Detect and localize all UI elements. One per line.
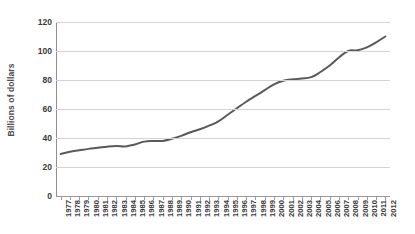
x-axis-tick-label: 1999 [268, 200, 277, 217]
x-axis-tick-label: 1980 [92, 200, 101, 217]
x-axis-tick-mark [385, 196, 386, 200]
x-axis-tick-label: 1998 [259, 200, 268, 217]
x-axis-tick-label: 1990 [184, 200, 193, 217]
x-axis-tick-mark [237, 196, 238, 200]
x-axis-tick-label: 1991 [194, 200, 203, 217]
x-axis-tick-mark [218, 196, 219, 200]
x-axis-tick-mark [88, 196, 89, 200]
plot-area [56, 22, 390, 196]
y-axis-title-text: Billions of dollars [6, 63, 16, 136]
x-axis-tick-mark [265, 196, 266, 200]
y-axis-tick-label: 120 [24, 17, 52, 27]
x-axis-tick-label: 1984 [129, 200, 138, 217]
x-axis-tick-mark [283, 196, 284, 200]
x-axis-tick-mark [302, 196, 303, 200]
x-axis-tick-label: 1992 [203, 200, 212, 217]
x-axis-tick-label: 2000 [277, 200, 286, 217]
x-axis-tick-label: 2010 [370, 200, 379, 217]
x-axis-tick-mark [367, 196, 368, 200]
x-axis-tick-mark [70, 196, 71, 200]
x-axis-tick-mark [116, 196, 117, 200]
x-axis-tick-label: 1979 [82, 200, 91, 217]
y-axis-tick-label: 100 [24, 46, 52, 56]
y-axis-tick-label: 60 [24, 104, 52, 114]
x-axis-tick-mark [153, 196, 154, 200]
x-axis-tick-label: 1978 [73, 200, 82, 217]
x-axis-tick-mark [144, 196, 145, 200]
x-axis-tick-mark [107, 196, 108, 200]
series-path [61, 37, 386, 154]
x-axis-tick-label: 2006 [333, 200, 342, 217]
x-axis-tick-label: 1989 [175, 200, 184, 217]
x-axis-tick-mark [358, 196, 359, 200]
x-axis-tick-label: 2008 [351, 200, 360, 217]
x-axis-tick-mark [181, 196, 182, 200]
x-axis-tick-label: 2009 [361, 200, 370, 217]
x-axis-tick-mark [126, 196, 127, 200]
x-axis-tick-mark [209, 196, 210, 200]
gridline [56, 22, 390, 23]
x-axis-tick-label: 2004 [314, 200, 323, 217]
y-axis-tick-label: 0 [24, 191, 52, 201]
x-axis-tick-label: 1994 [222, 200, 231, 217]
x-axis-tick-label: 1997 [249, 200, 258, 217]
y-axis-tick-label: 80 [24, 75, 52, 85]
x-axis-tick-mark [330, 196, 331, 200]
x-axis-tick-label: 1986 [147, 200, 156, 217]
x-axis-tick-mark [246, 196, 247, 200]
x-axis-tick-mark [320, 196, 321, 200]
x-axis-tick-label: 2007 [342, 200, 351, 217]
x-axis-tick-mark [135, 196, 136, 200]
gridline [56, 80, 390, 81]
x-axis-tick-label: 1993 [212, 200, 221, 217]
x-axis-tick-label: 1987 [157, 200, 166, 217]
y-axis-tick-label: 20 [24, 162, 52, 172]
gridline [56, 138, 390, 139]
x-axis-tick-label: 1988 [166, 200, 175, 217]
x-axis-tick-mark [163, 196, 164, 200]
x-axis-tick-label: 1985 [138, 200, 147, 217]
x-axis-tick-mark [339, 196, 340, 200]
x-axis-tick-mark [200, 196, 201, 200]
x-axis-tick-mark [348, 196, 349, 200]
x-axis-tick-label: 2003 [305, 200, 314, 217]
x-axis-tick-mark [274, 196, 275, 200]
x-axis-tick-mark [228, 196, 229, 200]
x-axis-tick-mark [191, 196, 192, 200]
x-axis-tick-mark [255, 196, 256, 200]
x-axis-tick-label: 1981 [101, 200, 110, 217]
x-axis-tick-label: 1977 [64, 200, 73, 217]
x-axis-tick-mark [172, 196, 173, 200]
x-axis-tick-label: 2005 [324, 200, 333, 217]
x-axis-tick-mark [61, 196, 62, 200]
x-axis-tick-label: 1982 [110, 200, 119, 217]
x-axis-tick-label: 1996 [240, 200, 249, 217]
x-axis-tick-label: 1995 [231, 200, 240, 217]
line-chart: Billions of dollars 020406080100120 1977… [0, 0, 415, 234]
x-axis-tick-label: 2002 [296, 200, 305, 217]
gridline [56, 51, 390, 52]
y-axis-tick-label: 40 [24, 133, 52, 143]
x-axis-tick-mark [293, 196, 294, 200]
gridline [56, 109, 390, 110]
gridline [56, 167, 390, 168]
x-axis-tick-mark [79, 196, 80, 200]
x-axis-tick-label: 2012 [389, 200, 398, 217]
x-axis-tick-label: 1983 [120, 200, 129, 217]
x-axis-tick-label: 2001 [287, 200, 296, 217]
x-axis-tick-mark [98, 196, 99, 200]
y-axis-tick-labels: 020406080100120 [22, 0, 52, 234]
x-axis-tick-mark [311, 196, 312, 200]
y-axis-title: Billions of dollars [2, 0, 20, 200]
x-axis-tick-mark [376, 196, 377, 200]
x-axis-tick-label: 2011 [379, 200, 388, 216]
